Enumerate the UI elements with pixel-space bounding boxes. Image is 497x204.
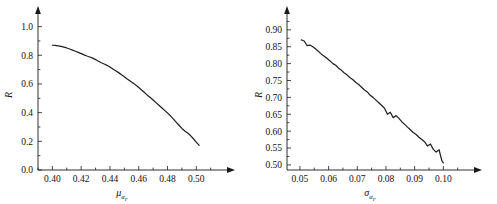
x-tick-label: 0.48: [159, 174, 176, 184]
y-tick-label: 0.8: [21, 51, 33, 61]
chart-left-y-axis-label: R: [3, 92, 14, 99]
chart-left-svg: 0.400.420.440.460.480.500.00.20.40.60.81…: [0, 0, 250, 204]
x-tick-label: 0.09: [406, 174, 423, 184]
chart-panel-left: 0.400.420.440.460.480.500.00.20.40.60.81…: [0, 0, 250, 204]
x-tick-label: 0.40: [44, 174, 61, 184]
chart-right-y-axis-label: R: [253, 92, 264, 99]
x-tick-label: 0.07: [349, 174, 366, 184]
chart-right-axes: [284, 6, 482, 173]
chart-right-x-axis-label: σαF: [364, 187, 376, 202]
chart-right-x-axis-label-subsub: F: [372, 197, 377, 202]
x-tick-label: 0.05: [292, 174, 309, 184]
chart-left-data-line: [52, 45, 199, 145]
x-tick-label: 0.46: [130, 174, 147, 184]
y-tick-label: 0.50: [265, 160, 282, 170]
y-tick-label: 0.60: [265, 127, 282, 137]
chart-right-tick-labels: 0.050.060.070.080.090.100.500.550.600.65…: [265, 25, 452, 184]
figure-container: 0.400.420.440.460.480.500.00.20.40.60.81…: [0, 0, 497, 204]
y-tick-label: 0.75: [265, 76, 282, 86]
y-tick-label: 0.0: [21, 165, 33, 175]
y-tick-label: 0.90: [265, 25, 282, 35]
y-tick-label: 0.80: [265, 59, 282, 69]
chart-left-ticks: [38, 27, 211, 170]
x-tick-label: 0.06: [320, 174, 337, 184]
chart-left-axes: [35, 6, 235, 173]
y-tick-label: 0.85: [265, 42, 282, 52]
chart-left-x-axis-label: μαF: [115, 187, 129, 202]
chart-left-x-axis-label-subsub: F: [124, 197, 129, 202]
chart-panel-right: 0.050.060.070.080.090.100.500.550.600.65…: [250, 0, 497, 204]
y-tick-label: 1.0: [21, 22, 33, 32]
chart-left-tick-labels: 0.400.420.440.460.480.500.00.20.40.60.81…: [21, 22, 205, 184]
chart-right-svg: 0.050.060.070.080.090.100.500.550.600.65…: [250, 0, 497, 204]
y-tick-label: 0.2: [21, 137, 33, 147]
y-tick-label: 0.65: [265, 110, 282, 120]
x-tick-label: 0.50: [188, 174, 205, 184]
x-tick-label: 0.10: [435, 174, 452, 184]
y-tick-label: 0.6: [21, 79, 33, 89]
y-tick-label: 0.55: [265, 143, 282, 153]
x-tick-label: 0.44: [102, 174, 119, 184]
y-tick-label: 0.4: [21, 108, 33, 118]
chart-right-data-line: [301, 40, 443, 163]
x-tick-label: 0.42: [73, 174, 90, 184]
y-tick-label: 0.70: [265, 93, 282, 103]
x-tick-label: 0.08: [378, 174, 395, 184]
